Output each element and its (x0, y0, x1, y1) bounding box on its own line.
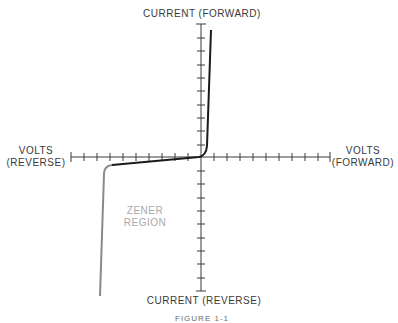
volts-forward-label: VOLTS (FORWARD) (330, 145, 396, 169)
zener-breakdown-curve (100, 165, 112, 296)
figure-caption: FIGURE 1-1 (175, 314, 229, 323)
volts-reverse-line1: VOLTS (4, 145, 68, 157)
current-forward-label: CURRENT (FORWARD) (140, 8, 264, 20)
zener-region-label: ZENER REGION (120, 205, 170, 229)
volts-reverse-line2: (REVERSE) (4, 157, 68, 169)
current-reverse-label: CURRENT (REVERSE) (142, 295, 266, 307)
volts-forward-line1: VOLTS (330, 145, 396, 157)
volts-forward-line2: (FORWARD) (330, 157, 396, 169)
forward-curve (112, 30, 211, 165)
zener-region-line1: ZENER (120, 205, 170, 217)
zener-region-line2: REGION (120, 217, 170, 229)
volts-reverse-label: VOLTS (REVERSE) (4, 145, 68, 169)
